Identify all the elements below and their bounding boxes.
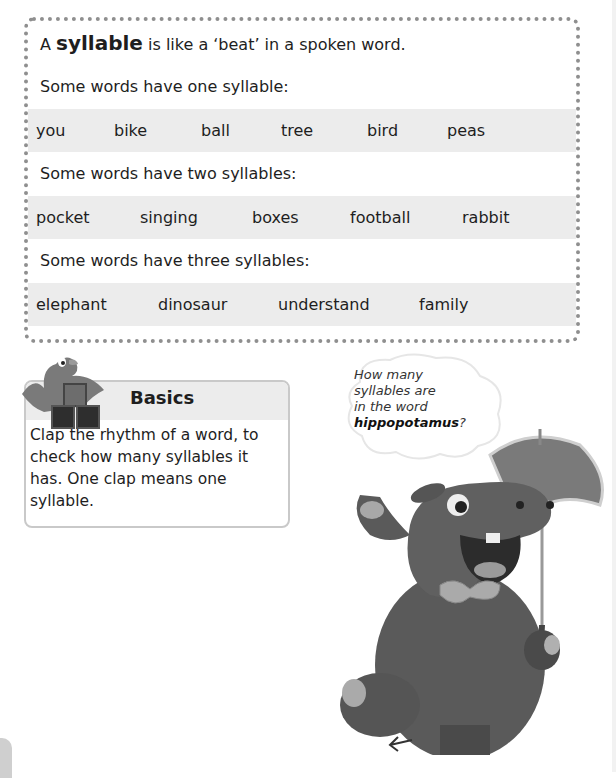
bubble-line: in the word [354, 399, 494, 415]
word: tree [281, 109, 313, 152]
word-row-two-syllables: pocket singing boxes football rabbit [28, 196, 576, 239]
group-label-one: Some words have one syllable: [28, 65, 576, 109]
basics-title: Basics [130, 387, 194, 408]
word: you [36, 109, 65, 152]
word: family [419, 283, 468, 326]
word: rabbit [462, 196, 509, 239]
group-label-three: Some words have three syllables: [28, 239, 576, 283]
speech-bubble-text: How many syllables are in the word hippo… [354, 367, 494, 431]
bubble-line: syllables are [354, 383, 494, 399]
word: peas [447, 109, 485, 152]
word: elephant [36, 283, 107, 326]
syllable-examples-box: A syllable is like a ‘beat’ in a spoken … [24, 17, 580, 343]
intro-term: syllable [56, 31, 143, 55]
word: understand [278, 283, 370, 326]
bubble-line: How many [354, 367, 494, 383]
page-tab-decoration [0, 738, 12, 778]
word: boxes [252, 196, 299, 239]
word: ball [201, 109, 230, 152]
word: bird [367, 109, 398, 152]
word-row-one-syllable: you bike ball tree bird peas [28, 109, 576, 152]
intro-suffix: is like a ‘beat’ in a spoken word. [143, 35, 406, 54]
intro-prefix: A [40, 35, 56, 54]
word: singing [140, 196, 198, 239]
intro-sentence: A syllable is like a ‘beat’ in a spoken … [28, 21, 576, 65]
hippo-with-umbrella-illustration [320, 425, 616, 755]
word: football [350, 196, 410, 239]
bird-with-blocks-icon [14, 346, 114, 446]
word-row-three-syllables: elephant dinosaur understand family [28, 283, 576, 326]
word: dinosaur [158, 283, 227, 326]
word: pocket [36, 196, 90, 239]
group-label-two: Some words have two syllables: [28, 152, 576, 196]
word: bike [114, 109, 147, 152]
